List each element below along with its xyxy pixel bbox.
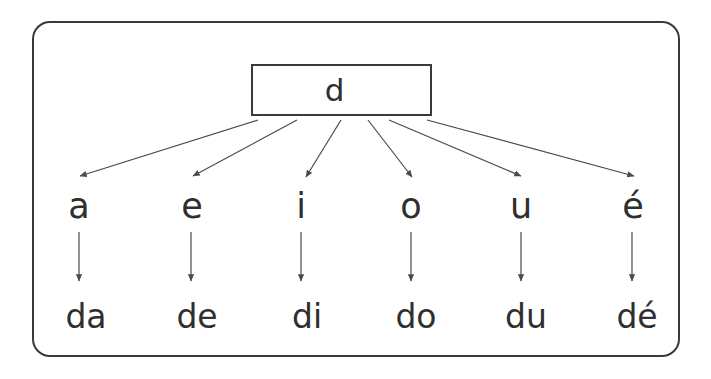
vowel-i: i: [256, 189, 346, 224]
root-consonant-label: d: [253, 66, 430, 114]
vowel-eacute: é: [588, 189, 678, 224]
vowel-u: u: [476, 189, 566, 224]
syllable-di: di: [252, 300, 362, 333]
vowel-o: o: [366, 189, 456, 224]
root-consonant-box: d: [251, 64, 432, 116]
diagram-canvas: d a e i o u é da de di: [0, 0, 711, 379]
syllable-da: da: [31, 300, 141, 333]
syllable-de-acute: dé: [582, 300, 692, 333]
syllable-du: du: [471, 300, 581, 333]
syllable-de: de: [142, 300, 252, 333]
vowel-a: a: [34, 189, 124, 224]
syllable-do: do: [361, 300, 471, 333]
vowel-e: e: [147, 189, 237, 224]
